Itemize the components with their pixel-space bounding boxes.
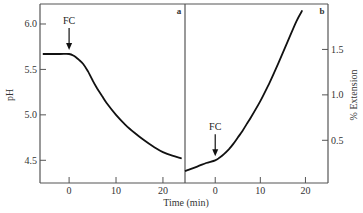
y-tick-label: 4.5 (25, 155, 38, 166)
fc-annotation-a: FC (63, 15, 76, 50)
y-axis-label-left: pH (4, 89, 15, 101)
y-tick-label: 1.5 (331, 44, 344, 55)
x-axis-label: Time (min) (163, 197, 208, 209)
x-tick-label: 0 (67, 185, 72, 196)
y-tick-label: 5.0 (25, 109, 38, 120)
x-tick-label: 20 (158, 185, 168, 196)
y-tick-label: 1.0 (331, 89, 344, 100)
x-tick-label: 0 (213, 185, 218, 196)
x-tick-label: 10 (111, 185, 121, 196)
panel-label-b: b (319, 6, 324, 16)
arrow-down-icon (212, 149, 218, 156)
panel-b-ticks: 010200.51.01.5 (213, 44, 344, 196)
extension-curve (185, 10, 302, 171)
panel-label-a: a (177, 6, 182, 16)
x-tick-label: 10 (255, 185, 265, 196)
y-tick-label: 5.5 (25, 64, 38, 75)
y-axis-label-right: % Extension (348, 70, 359, 121)
figure: 010204.55.05.56.0 010200.51.01.5 FC FC a… (0, 0, 363, 213)
y-tick-label: 6.0 (25, 18, 38, 29)
arrow-down-icon (66, 43, 72, 50)
fc-label-a: FC (63, 15, 76, 26)
y-tick-label: 0.5 (331, 135, 344, 146)
fc-label-b: FC (209, 121, 222, 132)
panel-a-ticks: 010204.55.05.56.0 (25, 18, 168, 196)
x-tick-label: 20 (300, 185, 310, 196)
fc-annotation-b: FC (209, 121, 222, 156)
ph-curve (43, 54, 182, 159)
axes-frame (40, 4, 328, 183)
